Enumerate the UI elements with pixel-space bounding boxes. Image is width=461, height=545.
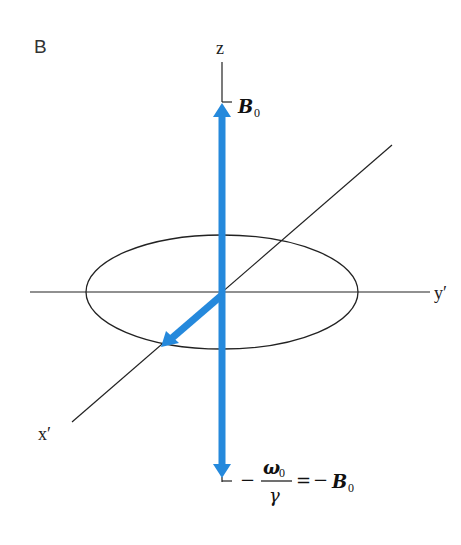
z-axis-label: z: [216, 38, 224, 58]
svg-text:B: B: [237, 96, 253, 117]
x-axis-line: [72, 145, 392, 422]
arrowhead-down-icon: [213, 464, 231, 478]
svg-text:ω: ω: [263, 457, 280, 478]
y-axis-label: y′: [434, 283, 447, 303]
rotating-frame-diagram: B z y′ x′ B 0 − ω 0 γ = − B 0: [0, 0, 461, 545]
vertical-vector: [213, 103, 231, 478]
svg-text:=: =: [296, 470, 311, 491]
top-vector-label: B 0: [237, 96, 260, 120]
bottom-vector-label: − ω 0 γ = − B 0: [240, 457, 354, 506]
svg-text:0: 0: [254, 106, 260, 120]
svg-text:−: −: [313, 469, 328, 490]
svg-text:γ: γ: [269, 485, 280, 506]
x-vector: [161, 295, 222, 347]
arrowhead-up-icon: [213, 103, 231, 117]
svg-text:0: 0: [279, 466, 285, 480]
svg-text:0: 0: [348, 481, 354, 495]
svg-text:B: B: [331, 471, 347, 492]
x-axis-label: x′: [38, 424, 51, 444]
panel-label: B: [34, 36, 47, 57]
svg-text:−: −: [240, 469, 255, 490]
